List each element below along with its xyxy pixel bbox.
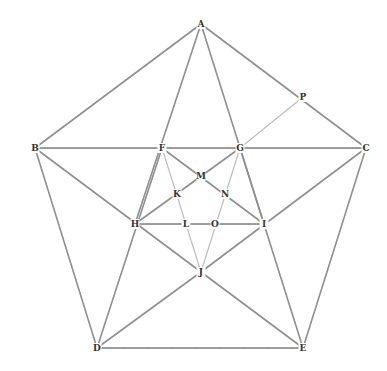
point-label-a: A [197, 19, 206, 29]
point-label-d: D [93, 343, 101, 353]
segment-bj [35, 148, 201, 272]
point-label-p: P [300, 92, 307, 102]
segment-bd [35, 148, 97, 348]
segment-gp [240, 97, 303, 148]
point-label-b: B [31, 143, 39, 153]
point-label-h: H [131, 219, 140, 229]
labels-group: ABCDEFGHIJKLMNOP [31, 19, 371, 353]
point-label-m: M [196, 171, 206, 181]
segments-group [35, 24, 366, 348]
point-label-f: F [159, 143, 166, 153]
segment-df [97, 148, 162, 348]
point-label-o: O [211, 219, 219, 229]
segment-cj [201, 148, 366, 272]
pentagon-diagram: ABCDEFGHIJKLMNOP [0, 0, 387, 371]
segment-dj [97, 272, 201, 348]
point-label-i: I [262, 219, 266, 229]
segment-gj [201, 148, 240, 272]
segment-ej [201, 272, 303, 348]
segment-ac [201, 24, 366, 148]
segment-fi [162, 148, 264, 224]
segment-eg [240, 148, 303, 348]
point-label-c: C [362, 143, 369, 153]
point-label-g: G [236, 143, 244, 153]
point-label-e: E [300, 343, 307, 353]
segment-ab [35, 24, 201, 148]
segment-gh [135, 148, 240, 224]
point-label-k: K [173, 189, 182, 199]
segment-ah [135, 24, 201, 224]
point-label-j: J [198, 267, 203, 277]
point-label-n: N [221, 189, 229, 199]
point-label-l: L [183, 219, 190, 229]
segment-ce [303, 148, 366, 348]
segment-fj [162, 148, 201, 272]
